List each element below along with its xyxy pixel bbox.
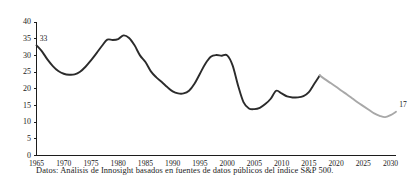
y-axis-tick-labels: 0510152025303540 [23, 17, 31, 160]
y-tick-label: 25 [23, 67, 31, 76]
x-tick-label: 2025 [356, 159, 371, 168]
chart-source-caption: Datos: Análisis de Innosight basados en … [36, 166, 334, 175]
y-tick-label: 30 [23, 51, 31, 60]
y-tick-label: 20 [23, 84, 31, 93]
y-tick-label: 40 [23, 17, 31, 26]
y-tick-label: 35 [23, 34, 31, 43]
data-point-label: 33 [40, 34, 48, 43]
y-tick-label: 5 [27, 134, 31, 143]
line-chart-plot: 0510152025303540 19651970197519801985199… [0, 0, 416, 189]
chart-container: 0510152025303540 19651970197519801985199… [0, 0, 416, 189]
y-tick-label: 15 [23, 101, 31, 110]
series-line-forecast [320, 75, 396, 117]
series-line-historic [37, 35, 320, 109]
x-tick-label: 2030 [383, 159, 398, 168]
y-tick-label: 10 [23, 117, 31, 126]
data-point-label: 17 [399, 100, 407, 109]
